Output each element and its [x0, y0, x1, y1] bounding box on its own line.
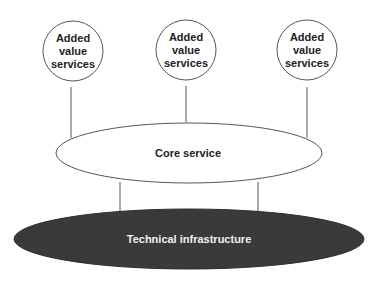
technical-infrastructure-label: Technical infrastructure	[89, 233, 289, 245]
label-line: value	[277, 44, 337, 57]
added-value-label-1: Added value services	[43, 32, 103, 71]
label-line: services	[156, 57, 216, 70]
label-line: services	[277, 57, 337, 70]
diagram-canvas: Added value services Added value service…	[0, 0, 379, 282]
label-line: Added	[43, 32, 103, 45]
core-service-label: Core service	[108, 147, 268, 159]
label-line: value	[156, 44, 216, 57]
added-value-label-2: Added value services	[156, 31, 216, 70]
label-line: Added	[277, 31, 337, 44]
added-value-label-3: Added value services	[277, 31, 337, 70]
label-line: services	[43, 58, 103, 71]
label-line: Added	[156, 31, 216, 44]
label-line: value	[43, 45, 103, 58]
